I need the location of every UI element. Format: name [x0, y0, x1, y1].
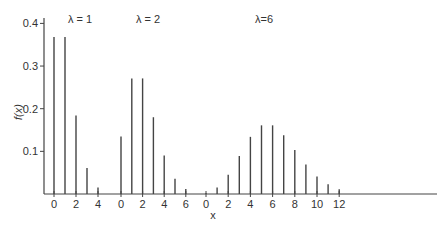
y-tick-label: 0.3 [23, 60, 38, 72]
x-tick-label: 10 [311, 198, 323, 210]
poisson-distribution-chart: 0.10.20.30.4 λ = 1024λ = 20246λ=60246810… [0, 0, 447, 225]
y-tick-label: 0.4 [23, 17, 38, 29]
x-tick-label: 12 [333, 198, 345, 210]
panel-lambda-1: λ = 1024 [51, 13, 101, 210]
y-axis-label: f(x) [12, 104, 24, 120]
x-tick-label: 0 [118, 198, 124, 210]
panel-label: λ = 2 [136, 13, 160, 25]
x-tick-label: 2 [225, 198, 231, 210]
x-axis-label: x [210, 209, 216, 221]
x-tick-label: 0 [51, 198, 57, 210]
panel-label: λ=6 [255, 13, 273, 25]
x-tick-label: 8 [292, 198, 298, 210]
x-tick-label: 6 [183, 198, 189, 210]
panel-lambda-2: λ = 20246 [118, 13, 189, 210]
x-tick-label: 2 [140, 198, 146, 210]
panels: λ = 1024λ = 20246λ=6024681012 [51, 13, 345, 210]
axes [44, 18, 437, 194]
panel-lambda-3: λ=6024681012 [203, 13, 345, 210]
x-tick-label: 2 [73, 198, 79, 210]
y-tick-label: 0.2 [23, 103, 38, 115]
x-tick-label: 4 [161, 198, 167, 210]
x-tick-label: 4 [95, 198, 101, 210]
y-tick-label: 0.1 [23, 145, 38, 157]
x-tick-label: 0 [203, 198, 209, 210]
panel-label: λ = 1 [68, 13, 92, 25]
x-tick-label: 4 [247, 198, 253, 210]
y-axis-ticks: 0.10.20.30.4 [23, 17, 44, 157]
x-tick-label: 6 [270, 198, 276, 210]
